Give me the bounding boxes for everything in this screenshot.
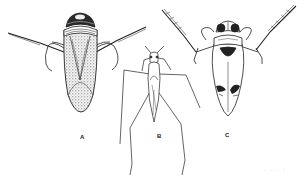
insect-b bbox=[120, 46, 200, 175]
footer-marks: . . . : bbox=[265, 167, 287, 172]
figure-label-a: A bbox=[80, 134, 84, 140]
insect-a bbox=[8, 13, 146, 112]
insect-c bbox=[162, 5, 296, 116]
figure-label-b: B bbox=[157, 133, 161, 139]
insect-illustration bbox=[0, 0, 304, 176]
figure-label-c: C bbox=[225, 132, 229, 138]
